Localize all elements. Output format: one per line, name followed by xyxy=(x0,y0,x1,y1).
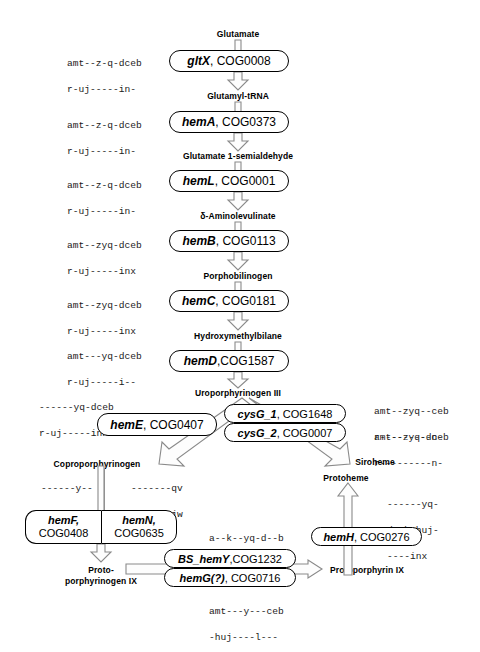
pattern-line: amt---y---ceb xyxy=(209,606,284,617)
pattern-line: r-uj-----inx xyxy=(67,266,136,277)
enzyme-cog-id: COG0408 xyxy=(39,527,89,540)
arrow-coproporphyrinogen-to-hemf xyxy=(94,466,108,512)
enzyme-cog-id: ,COG1232 xyxy=(229,553,282,565)
pattern-line: amt--z-q-dceb xyxy=(67,58,142,69)
pathway-diagram: Glutamate amt--z-q-dceb r-uj-----in- glt… xyxy=(0,0,480,652)
enzyme-heml[interactable]: hemL, COG0001 xyxy=(169,170,289,192)
enzyme-hemn[interactable]: hemN, COG0635 xyxy=(101,510,177,544)
enzyme-gene-name: gltX xyxy=(187,54,210,68)
arrow-hemb-to-porphobilinogen xyxy=(225,252,251,270)
pattern-hemg: amt---y---ceb -huj----l--- xyxy=(186,592,284,652)
enzyme-cog-id: COG0635 xyxy=(114,527,164,540)
enzyme-gene-name: BS_hemY xyxy=(178,553,229,565)
arrow-gltx-to-glutamyl-trna xyxy=(225,72,251,90)
pattern-line: ------y-- xyxy=(41,483,93,494)
enzyme-bs-hemy[interactable]: BS_hemY,COG1232 xyxy=(164,549,296,568)
pattern-line: ----inx xyxy=(387,551,427,562)
pattern-line: amt--zyq--ceb xyxy=(374,406,449,417)
pattern-line: amt--z-q-dceb xyxy=(67,120,142,131)
arrow-hemd-to-uroporphyrinogen xyxy=(225,372,251,388)
enzyme-gene-name: hemD xyxy=(184,354,217,368)
pattern-hema: amt--z-q-dceb r-uj-----in- xyxy=(44,106,142,171)
enzyme-gene-name: hemE xyxy=(110,418,143,432)
arrow-hema-to-glutamate-1-semialdehyde xyxy=(225,133,251,151)
pattern-line: r-uj-----i-- xyxy=(67,377,136,388)
pattern-line: r-uj-----in- xyxy=(67,84,136,95)
enzyme-cog-id: , COG0276 xyxy=(354,531,410,543)
enzyme-cog-id: , COG0007 xyxy=(277,427,333,439)
metabolite-siroheme: Siroheme xyxy=(355,457,395,467)
pattern-line: -huj----l--- xyxy=(209,632,278,643)
pattern-line: -------qv xyxy=(131,483,183,494)
enzyme-gene-name: hemA xyxy=(182,115,215,129)
metabolite-glutamate-1-semialdehyde: Glutamate 1-semialdehyde xyxy=(183,151,293,161)
enzyme-hemg[interactable]: hemG(?), COG0716 xyxy=(164,568,296,587)
pattern-line: r-uj-----in- xyxy=(67,146,136,157)
pattern-line: ------yq- xyxy=(387,499,439,510)
enzyme-cog-id: , COG0001 xyxy=(215,174,276,188)
metabolite-aminolevulinate: δ-Aminolevulinate xyxy=(200,211,275,221)
arrow-heml-to-aminolevulinate xyxy=(225,192,251,210)
metabolite-glutamate: Glutamate xyxy=(217,29,259,39)
enzyme-gltx[interactable]: gltX, COG0008 xyxy=(169,50,289,72)
enzyme-gene-name: hemN, xyxy=(122,514,156,527)
pattern-line: amt--z-q-dceb xyxy=(67,180,142,191)
enzyme-gene-name: hemG(?) xyxy=(180,572,225,584)
enzyme-cog-id: , COG0181 xyxy=(215,294,276,308)
pattern-line: amt---yq-dceb xyxy=(67,351,142,362)
enzyme-cysg1[interactable]: cysG_1, COG1648 xyxy=(224,404,346,423)
enzyme-gene-name: hemL xyxy=(183,174,215,188)
enzyme-cog-id: , COG0113 xyxy=(216,234,276,248)
enzyme-hemd[interactable]: hemD,COG1587 xyxy=(169,350,289,372)
enzyme-gene-name: hemF, xyxy=(48,514,79,527)
pattern-line: r-uj-----inx xyxy=(67,326,136,337)
pattern-hemb: amt--zyq-dceb r-uj-----inx xyxy=(44,226,142,291)
enzyme-gene-name: hemH xyxy=(323,531,354,543)
pattern-gltx: amt--z-q-dceb r-uj-----in- xyxy=(44,44,142,109)
arrow-hemc-to-hydroxymethylbilane xyxy=(225,312,251,330)
enzyme-cog-id: , COG0373 xyxy=(215,115,276,129)
metabolite-hydroxymethylbilane: Hydroxymethylbilane xyxy=(194,331,282,341)
enzyme-gene-name: hemC xyxy=(182,294,215,308)
pattern-line: r-uj-----in- xyxy=(67,206,136,217)
enzyme-hemf[interactable]: hemF, COG0408 xyxy=(25,510,101,544)
arrow-hemf-to-protoporphyrinogen xyxy=(88,544,114,562)
pattern-line: ------yq-dceb xyxy=(39,402,114,413)
enzyme-gene-name: cysG_1 xyxy=(238,408,277,420)
enzyme-cog-id: , COG0407 xyxy=(143,418,204,432)
metabolite-glutamyl-trna: Glutamyl-tRNA xyxy=(207,91,269,101)
pattern-line: amt--zyq-dceb xyxy=(67,300,142,311)
enzyme-cog-id: , COG0716 xyxy=(225,572,281,584)
enzyme-hemc[interactable]: hemC, COG0181 xyxy=(169,290,289,312)
enzyme-cog-id: , COG1648 xyxy=(277,408,333,420)
pattern-line: amt--zyq-dceb xyxy=(67,240,142,251)
pattern-line: amt--zyq-dceb xyxy=(374,432,449,443)
metabolite-porphobilinogen: Porphobilinogen xyxy=(203,271,272,281)
pattern-heml: amt--z-q-dceb r-uj-----in- xyxy=(44,166,142,231)
enzyme-hemh[interactable]: hemH, COG0276 xyxy=(311,527,422,546)
metabolite-line: Proto- xyxy=(88,565,114,575)
enzyme-cog-id: ,COG1587 xyxy=(217,354,274,368)
metabolite-protoheme: Protoheme xyxy=(323,473,368,483)
enzyme-gene-name: hemB xyxy=(182,234,215,248)
enzyme-hema[interactable]: hemA, COG0373 xyxy=(169,111,289,133)
enzyme-heme[interactable]: hemE, COG0407 xyxy=(97,413,217,436)
pattern-line: a--k--yq-d--b xyxy=(209,533,284,544)
enzyme-gene-name: cysG_2 xyxy=(238,427,277,439)
enzyme-cog-id: , COG0008 xyxy=(210,54,271,68)
enzyme-cysg2[interactable]: cysG_2, COG0007 xyxy=(224,423,346,442)
enzyme-hemb[interactable]: hemB, COG0113 xyxy=(169,230,289,252)
